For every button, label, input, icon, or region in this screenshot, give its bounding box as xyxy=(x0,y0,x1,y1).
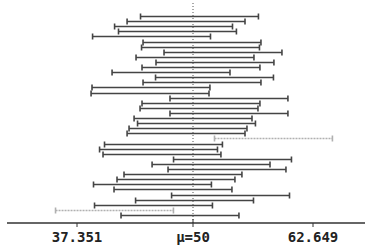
interval-covers-mu xyxy=(115,24,233,30)
interval-covers-mu xyxy=(127,131,245,137)
interval-covers-mu xyxy=(152,162,270,168)
interval-covers-mu xyxy=(174,157,292,163)
interval-covers-mu xyxy=(127,19,245,25)
interval-covers-mu xyxy=(112,70,230,76)
interval-covers-mu xyxy=(156,60,274,66)
tick-label-lower: 37.351 xyxy=(52,229,103,245)
interval-misses-mu xyxy=(56,208,174,214)
interval-covers-mu xyxy=(168,167,286,173)
interval-covers-mu xyxy=(142,65,260,71)
interval-covers-mu xyxy=(91,91,209,97)
interval-covers-mu xyxy=(172,193,290,199)
interval-covers-mu xyxy=(136,198,254,204)
interval-group xyxy=(56,14,333,219)
interval-covers-mu xyxy=(142,45,260,51)
interval-covers-mu xyxy=(138,121,256,127)
tick-label-mu: μ=50 xyxy=(176,229,210,245)
interval-covers-mu xyxy=(143,80,261,86)
interval-covers-mu xyxy=(114,187,232,193)
interval-covers-mu xyxy=(140,106,258,112)
interval-covers-mu xyxy=(100,147,218,153)
interval-misses-mu xyxy=(214,136,332,142)
interval-covers-mu xyxy=(170,96,288,102)
interval-covers-mu xyxy=(117,177,235,183)
interval-covers-mu xyxy=(119,29,237,35)
confidence-interval-chart xyxy=(0,0,371,250)
interval-covers-mu xyxy=(94,182,212,188)
interval-covers-mu xyxy=(121,213,239,219)
interval-covers-mu xyxy=(141,14,259,20)
interval-covers-mu xyxy=(95,203,213,209)
interval-covers-mu xyxy=(105,142,223,148)
interval-covers-mu xyxy=(164,50,282,56)
interval-covers-mu xyxy=(142,101,260,107)
interval-covers-mu xyxy=(170,111,288,117)
interval-covers-mu xyxy=(136,55,254,61)
interval-covers-mu xyxy=(92,85,210,91)
interval-covers-mu xyxy=(103,152,221,158)
interval-covers-mu xyxy=(156,75,274,81)
interval-covers-mu xyxy=(143,40,261,46)
interval-covers-mu xyxy=(124,172,242,178)
tick-label-upper: 62.649 xyxy=(288,229,339,245)
interval-covers-mu xyxy=(129,126,247,132)
